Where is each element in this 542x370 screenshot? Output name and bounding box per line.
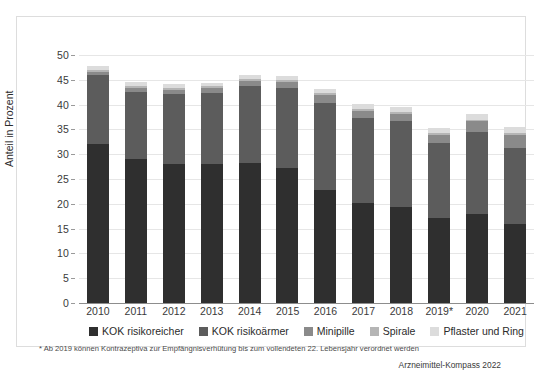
bar-segment bbox=[87, 144, 109, 303]
x-axis-tick-label: 2011 bbox=[117, 305, 155, 321]
bar-column[interactable] bbox=[201, 55, 223, 303]
y-axis-tick-mark bbox=[71, 129, 75, 130]
y-axis-tick-mark bbox=[71, 55, 75, 56]
bar-segment bbox=[466, 132, 488, 213]
x-axis-tick-label: 2013 bbox=[193, 305, 231, 321]
x-axis-tick-label: 2018 bbox=[382, 305, 420, 321]
bar-column[interactable] bbox=[125, 55, 147, 303]
bar-column[interactable] bbox=[87, 55, 109, 303]
bar-segment bbox=[239, 86, 261, 162]
bar-segment bbox=[239, 163, 261, 303]
y-axis-tick-label: 30 bbox=[57, 148, 69, 160]
legend-label: Spirale bbox=[383, 325, 416, 337]
bar-segment bbox=[87, 75, 109, 144]
x-axis-tick-label: 2017 bbox=[344, 305, 382, 321]
y-axis-tick-label: 35 bbox=[57, 123, 69, 135]
bar-segment bbox=[390, 114, 412, 122]
bar-segment bbox=[314, 103, 336, 190]
legend-swatch-icon bbox=[430, 327, 439, 336]
x-axis-tick-label: 2014 bbox=[231, 305, 269, 321]
legend-swatch-icon bbox=[89, 327, 98, 336]
x-axis-tick-label: 2021 bbox=[496, 305, 534, 321]
chart-footnote: * Ab 2019 können Kontrazeptiva zur Empfä… bbox=[39, 344, 419, 353]
y-axis-tick-mark bbox=[71, 179, 75, 180]
bar-column[interactable] bbox=[390, 55, 412, 303]
y-axis-tick-mark bbox=[71, 278, 75, 279]
legend-item[interactable]: Pflaster und Ring bbox=[430, 325, 524, 337]
gridline bbox=[79, 303, 534, 304]
bar-segment bbox=[428, 218, 450, 303]
bar-segment bbox=[201, 93, 223, 164]
bar-segment bbox=[125, 92, 147, 159]
chart-source: Arzneimittel-Kompass 2022 bbox=[399, 360, 501, 370]
y-axis-tick-label: 0 bbox=[63, 297, 69, 309]
x-axis: 2010201120122013201420152016201720182019… bbox=[79, 305, 534, 321]
legend-swatch-icon bbox=[370, 327, 379, 336]
legend-item[interactable]: Minipille bbox=[304, 325, 355, 337]
y-axis: 05101520253035404550 bbox=[17, 55, 75, 303]
bar-segment bbox=[504, 135, 526, 148]
x-axis-tick-label: 2019* bbox=[420, 305, 458, 321]
bar-column[interactable] bbox=[239, 55, 261, 303]
bar-segment bbox=[428, 135, 450, 143]
legend-label: Minipille bbox=[317, 325, 355, 337]
bar-column[interactable] bbox=[352, 55, 374, 303]
bar-segment bbox=[314, 95, 336, 102]
bar-column[interactable] bbox=[428, 55, 450, 303]
y-axis-title: Anteil in Prozent bbox=[3, 91, 15, 167]
x-axis-tick-label: 2016 bbox=[307, 305, 345, 321]
chart-frame: 05101520253035404550 Anteil in Prozent 2… bbox=[16, 16, 526, 347]
y-axis-tick-label: 25 bbox=[57, 173, 69, 185]
legend-label: Pflaster und Ring bbox=[443, 325, 524, 337]
bar-segment bbox=[314, 190, 336, 303]
bar-segment bbox=[504, 224, 526, 303]
legend-item[interactable]: Spirale bbox=[370, 325, 416, 337]
bar-segment bbox=[352, 118, 374, 203]
bar-column[interactable] bbox=[466, 55, 488, 303]
bar-segment bbox=[201, 164, 223, 303]
legend-item[interactable]: KOK risikoärmer bbox=[199, 325, 289, 337]
bar-segment bbox=[428, 143, 450, 217]
y-axis-tick-mark bbox=[71, 229, 75, 230]
bar-segment bbox=[352, 203, 374, 303]
y-axis-tick-label: 40 bbox=[57, 99, 69, 111]
bar-column[interactable] bbox=[276, 55, 298, 303]
legend-swatch-icon bbox=[304, 327, 313, 336]
bar-segment bbox=[504, 148, 526, 223]
bar-segment bbox=[352, 111, 374, 118]
bar-column[interactable] bbox=[504, 55, 526, 303]
x-axis-tick-label: 2010 bbox=[79, 305, 117, 321]
y-axis-tick-mark bbox=[71, 105, 75, 106]
legend-label: KOK risikoärmer bbox=[212, 325, 289, 337]
bar-group bbox=[79, 55, 534, 303]
bar-segment bbox=[466, 214, 488, 303]
legend-label: KOK risikoreicher bbox=[102, 325, 184, 337]
bar-segment bbox=[390, 207, 412, 303]
bar-column[interactable] bbox=[314, 55, 336, 303]
x-axis-tick-label: 2020 bbox=[458, 305, 496, 321]
chart-legend: KOK risikoreicherKOK risikoärmerMinipill… bbox=[79, 325, 534, 337]
legend-item[interactable]: KOK risikoreicher bbox=[89, 325, 184, 337]
x-axis-tick-label: 2015 bbox=[269, 305, 307, 321]
y-axis-tick-mark bbox=[71, 154, 75, 155]
y-axis-tick-label: 10 bbox=[57, 247, 69, 259]
y-axis-tick-label: 15 bbox=[57, 223, 69, 235]
y-axis-tick-mark bbox=[71, 204, 75, 205]
bar-segment bbox=[125, 159, 147, 303]
y-axis-tick-label: 5 bbox=[63, 272, 69, 284]
y-axis-tick-label: 20 bbox=[57, 198, 69, 210]
bar-segment bbox=[466, 121, 488, 132]
y-axis-tick-label: 45 bbox=[57, 74, 69, 86]
legend-swatch-icon bbox=[199, 327, 208, 336]
bar-column[interactable] bbox=[163, 55, 185, 303]
x-axis-tick-label: 2012 bbox=[155, 305, 193, 321]
y-axis-tick-mark bbox=[71, 303, 75, 304]
y-axis-tick-label: 50 bbox=[57, 49, 69, 61]
bar-segment bbox=[390, 121, 412, 207]
plot-area bbox=[79, 55, 534, 303]
bar-segment bbox=[276, 168, 298, 303]
bar-segment bbox=[276, 88, 298, 167]
bar-segment bbox=[163, 94, 185, 164]
bar-segment bbox=[163, 164, 185, 303]
